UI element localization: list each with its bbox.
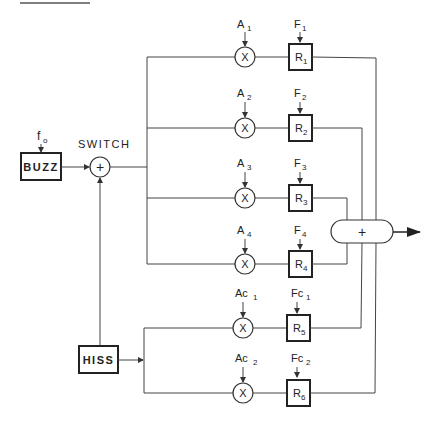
svg-text:R: R xyxy=(295,51,303,63)
svg-text:A: A xyxy=(237,18,245,30)
svg-text:A: A xyxy=(237,224,245,236)
svg-text:F: F xyxy=(294,157,301,169)
svg-text:4: 4 xyxy=(247,230,252,239)
svg-text:1: 1 xyxy=(302,24,307,33)
svg-text:5: 5 xyxy=(301,328,306,337)
branch-5: Ac 1 X Fc 1 R 5 xyxy=(144,287,361,341)
hiss-source-block: HISS xyxy=(79,346,118,373)
svg-text:1: 1 xyxy=(303,57,308,66)
svg-text:4: 4 xyxy=(302,230,307,239)
branch-1: A 1 X F 1 R 1 xyxy=(147,18,376,70)
svg-text:2: 2 xyxy=(306,358,311,367)
svg-text:3: 3 xyxy=(303,198,308,207)
svg-text:Fc: Fc xyxy=(291,287,304,299)
svg-text:+: + xyxy=(96,159,104,175)
output-summer: + xyxy=(331,220,393,243)
svg-text:Fc: Fc xyxy=(291,352,304,364)
svg-text:HISS: HISS xyxy=(83,354,115,366)
svg-text:3: 3 xyxy=(302,163,307,172)
svg-text:1: 1 xyxy=(253,293,258,302)
svg-text:A: A xyxy=(237,157,245,169)
formant-synthesizer-diagram: f o BUZZ SWITCH + HISS A 1 X F 1 xyxy=(0,0,434,423)
branch-2: A 2 X F 2 R 2 xyxy=(147,87,362,141)
svg-text:R: R xyxy=(295,122,303,134)
svg-text:X: X xyxy=(239,322,247,334)
svg-text:Ac: Ac xyxy=(235,287,248,299)
svg-text:f: f xyxy=(37,129,41,143)
svg-text:X: X xyxy=(239,387,247,399)
svg-text:R: R xyxy=(295,192,303,204)
svg-text:2: 2 xyxy=(302,93,307,102)
collector-r5 xyxy=(361,243,362,328)
buzz-source-block: BUZZ xyxy=(21,153,61,180)
svg-text:BUZZ: BUZZ xyxy=(23,161,58,173)
svg-text:F: F xyxy=(294,18,301,30)
svg-text:6: 6 xyxy=(301,393,306,402)
switch-node: + xyxy=(90,157,110,177)
switch-label: SWITCH xyxy=(78,138,130,150)
svg-text:X: X xyxy=(241,258,249,270)
svg-text:2: 2 xyxy=(247,93,252,102)
svg-text:+: + xyxy=(358,224,366,240)
branch-3: A 3 X F 3 R 3 xyxy=(147,157,347,211)
svg-text:1: 1 xyxy=(306,293,311,302)
svg-text:R: R xyxy=(295,258,303,270)
svg-text:F: F xyxy=(294,224,301,236)
buzz-input-label: f o xyxy=(37,129,48,145)
svg-text:Ac: Ac xyxy=(235,352,248,364)
svg-text:R: R xyxy=(293,322,301,334)
svg-text:F: F xyxy=(294,87,301,99)
svg-text:R: R xyxy=(293,387,301,399)
svg-text:A: A xyxy=(237,87,245,99)
svg-text:o: o xyxy=(43,136,48,145)
branch-6: Ac 2 X Fc 2 R 6 xyxy=(144,352,375,406)
svg-text:2: 2 xyxy=(253,358,258,367)
svg-text:3: 3 xyxy=(247,163,252,172)
collector-r6 xyxy=(375,243,376,393)
svg-text:X: X xyxy=(241,122,249,134)
svg-text:4: 4 xyxy=(303,264,308,273)
svg-text:1: 1 xyxy=(247,24,252,33)
svg-text:X: X xyxy=(241,192,249,204)
branch-4: A 4 X F 4 R 4 xyxy=(147,224,347,277)
svg-text:X: X xyxy=(241,51,249,63)
svg-text:2: 2 xyxy=(303,128,308,137)
